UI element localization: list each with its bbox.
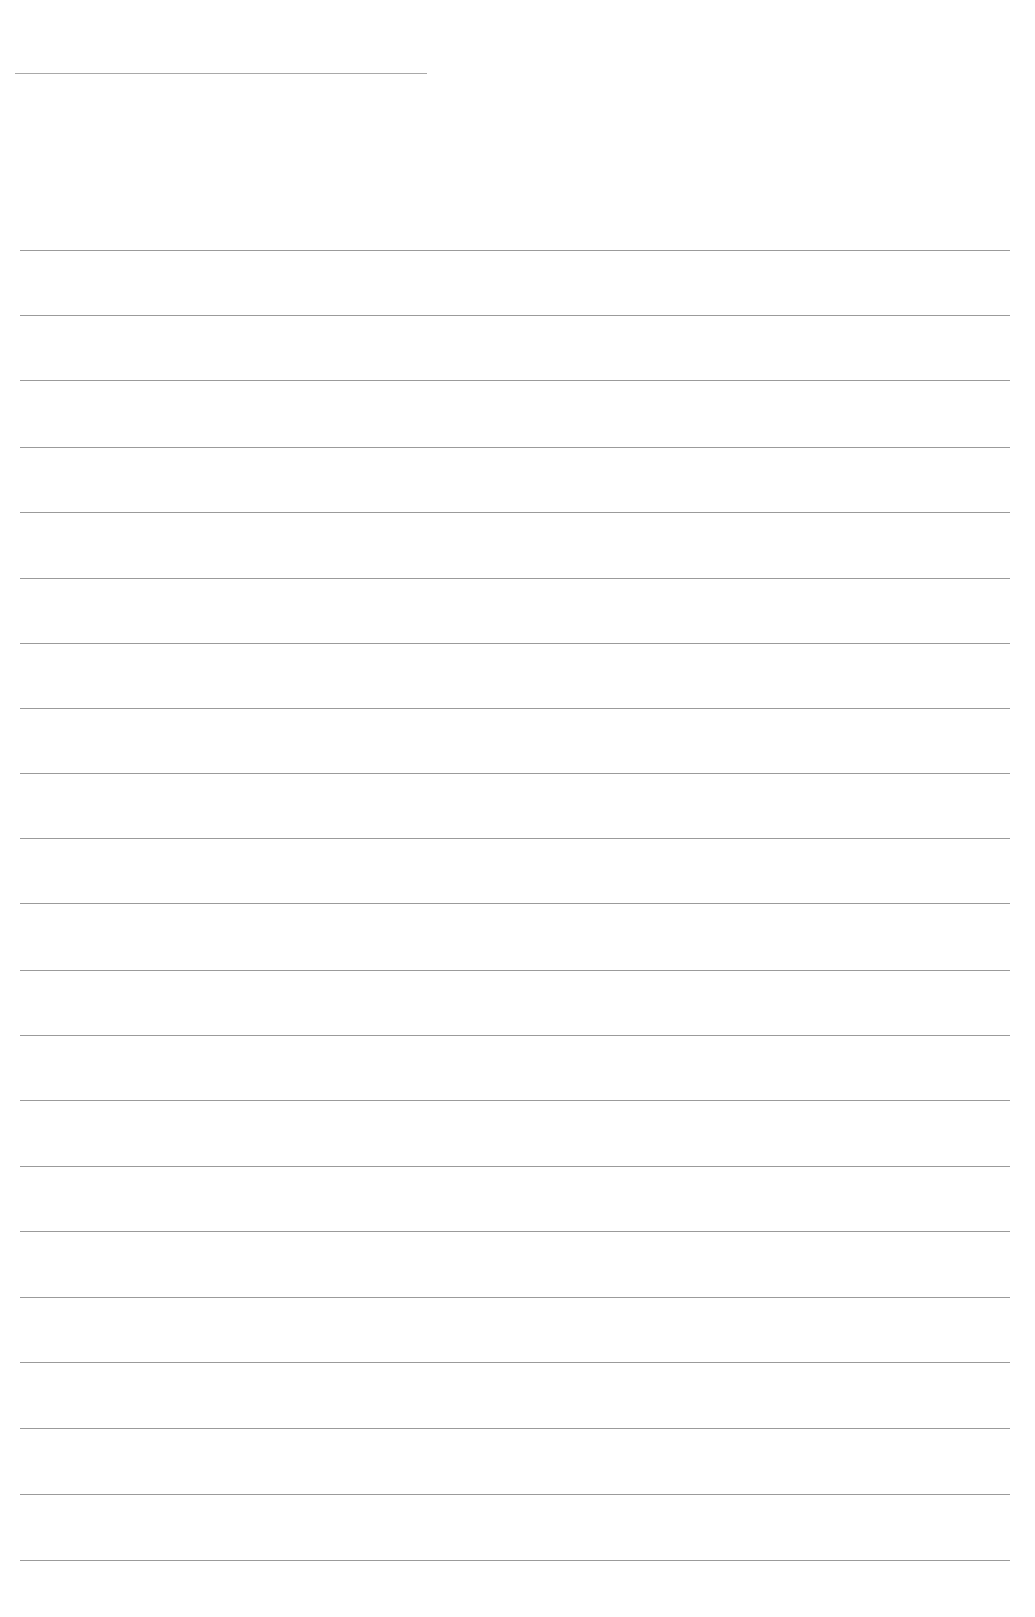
ruled-line (20, 578, 1010, 579)
ruled-line (20, 1100, 1010, 1101)
header-line (15, 73, 427, 74)
ruled-line (20, 1494, 1010, 1495)
ruled-line (20, 708, 1010, 709)
ruled-line (20, 1231, 1010, 1232)
ruled-line (20, 447, 1010, 448)
ruled-line (20, 1362, 1010, 1363)
ruled-line (20, 643, 1010, 644)
ruled-line (20, 1297, 1010, 1298)
ruled-line (20, 970, 1010, 971)
ruled-line (20, 512, 1010, 513)
ruled-line (20, 1560, 1010, 1561)
ruled-line (20, 380, 1010, 381)
ruled-line (20, 838, 1010, 839)
ruled-line (20, 315, 1010, 316)
ruled-line (20, 250, 1010, 251)
ruled-line (20, 903, 1010, 904)
ruled-line (20, 1166, 1010, 1167)
ruled-line (20, 1035, 1010, 1036)
ruled-line (20, 1428, 1010, 1429)
ruled-line (20, 773, 1010, 774)
